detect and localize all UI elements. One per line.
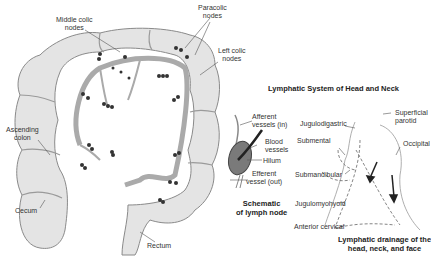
label-ascending-colon: Ascending colon <box>6 126 39 142</box>
label-jugulodigastric: Jugulodigastric <box>300 120 347 128</box>
label-middle-colic-nodes: Middle colic nodes <box>56 16 93 32</box>
label-afferent-vessels: Afferent vessels (in) <box>252 113 287 129</box>
label-submandibular: Submandibular <box>295 171 342 179</box>
drainage-caption: Lymphatic drainage of the head, neck, an… <box>338 235 431 253</box>
label-occipital: Occipital <box>403 140 430 148</box>
label-efferent-vessel: Efferent vessel (out) <box>246 170 282 186</box>
label-paracolic-nodes: Paracolic nodes <box>198 4 227 20</box>
label-submental: Submental <box>297 137 330 145</box>
label-jugulomyohyoid: Jugulomyohyoid <box>295 200 346 208</box>
lymph-node-caption: Schematic of lymph node <box>236 199 287 217</box>
drainage-arrows <box>367 162 397 202</box>
label-hilum: Hilum <box>263 157 281 165</box>
colic-vessel <box>76 58 187 185</box>
label-rectum: Rectum <box>147 242 171 250</box>
label-superficial-parotid: Superficial parotid <box>395 109 428 125</box>
label-cecum: Cecum <box>15 207 37 215</box>
label-left-colic-nodes: Left colic nodes <box>218 47 246 63</box>
head-neck-title: Lymphatic System of Head and Neck <box>268 84 399 93</box>
label-anterior-cervical: Anterior cervical <box>294 223 344 231</box>
label-blood-vessels: Blood vessels <box>265 138 288 154</box>
